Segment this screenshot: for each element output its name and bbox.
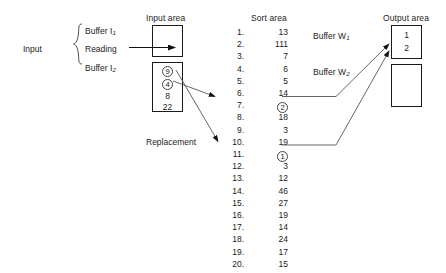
sort-row-index: 19.: [222, 246, 244, 258]
sort-row-index: 1.: [222, 26, 244, 38]
input-buffer-bottom-box: 94822: [152, 62, 183, 112]
sort-area-list: 1.132.1113.74.65.56.147.28.189.310.1911.…: [222, 26, 332, 272]
output-buffer-value: 2: [392, 44, 421, 53]
sort-row-index: 8.: [222, 111, 244, 123]
sort-row: 11.1: [222, 148, 332, 160]
sort-row-index: 11.: [222, 148, 244, 160]
sort-row-index: 12.: [222, 160, 244, 172]
output-buffer-bottom-box: [391, 64, 422, 107]
circled-value: 4: [162, 79, 173, 90]
output-buffer-value: 1: [392, 31, 421, 40]
sort-row-value: 12: [252, 172, 288, 184]
input-group-label: Input: [23, 44, 42, 54]
sort-row: 6.14: [222, 87, 332, 99]
sort-area-title: Sort area: [251, 13, 287, 23]
sort-row-index: 9.: [222, 124, 244, 136]
sort-row-value: 6: [252, 63, 288, 75]
sort-row-value: 19: [252, 136, 288, 148]
sort-row-index: 2.: [222, 38, 244, 50]
sort-row-value: 18: [252, 111, 288, 123]
sort-row: 16.19: [222, 209, 332, 221]
sort-row: 17.14: [222, 221, 332, 233]
sort-row-value: 13: [252, 26, 288, 38]
sort-row: 12.3: [222, 160, 332, 172]
sort-row: 13.12: [222, 172, 332, 184]
sort-row-value: 17: [252, 246, 288, 258]
buffer-i2-text: Buffer I: [85, 63, 112, 73]
circled-value: 9: [162, 66, 173, 77]
reading-label: Reading: [85, 44, 117, 54]
sort-row-value: 46: [252, 185, 288, 197]
sort-row: 19.17: [222, 246, 332, 258]
buffer-w1-text: Buffer W: [313, 31, 346, 41]
sort-row-index: 17.: [222, 221, 244, 233]
sort-row-value: 14: [252, 87, 288, 99]
sort-row-value: 15: [252, 258, 288, 270]
output-buffer-top-box: 12: [391, 25, 422, 59]
input-buffer-value: 22: [153, 103, 182, 112]
buffer-i1-subscript: 1: [112, 29, 116, 36]
buffer-w2-label: Buffer W2: [313, 67, 350, 77]
sort-row: 10.19: [222, 136, 332, 148]
sort-row-index: 20.: [222, 258, 244, 270]
sort-row: 3.7: [222, 50, 332, 62]
sort-row-index: 6.: [222, 87, 244, 99]
sort-row-value: 19: [252, 209, 288, 221]
input-area-title: Input area: [146, 13, 185, 23]
sort-row: 18.24: [222, 233, 332, 245]
buffer-w1-subscript: 1: [346, 34, 350, 41]
sort-row: 15.27: [222, 197, 332, 209]
sort-row-index: 3.: [222, 50, 244, 62]
input-buffer-value: 4: [153, 79, 182, 90]
sort-row-value: 5: [252, 75, 288, 87]
sort-row-value: 111: [252, 38, 288, 50]
sort-row-value: 27: [252, 197, 288, 209]
sort-row-index: 13.: [222, 172, 244, 184]
sort-row: 7.2: [222, 99, 332, 111]
output-area-title: Output area: [383, 13, 429, 23]
input-brace: [74, 24, 83, 64]
input-buffer-value: 9: [153, 66, 182, 77]
buffer-i1-text: Buffer I: [85, 26, 112, 36]
sort-row-value: 7: [252, 50, 288, 62]
buffer-i1-label: Buffer I1: [85, 26, 116, 36]
sort-row-index: 16.: [222, 209, 244, 221]
input-buffer-value: 8: [153, 92, 182, 101]
sort-row-index: 10.: [222, 136, 244, 148]
replacement-label: Replacement: [146, 137, 196, 147]
buffer-i2-label: Buffer I2: [85, 63, 116, 73]
buffer-w2-subscript: 2: [346, 70, 350, 77]
sort-row: 14.46: [222, 185, 332, 197]
sort-row-value: 3: [252, 160, 288, 172]
buffer-i2-subscript: 2: [112, 66, 116, 73]
sort-row-index: 18.: [222, 233, 244, 245]
input-buffer-top-box: [152, 25, 183, 57]
sort-row-value: 24: [252, 233, 288, 245]
sort-row: 8.18: [222, 111, 332, 123]
sort-row-index: 14.: [222, 185, 244, 197]
sort-row: 9.3: [222, 124, 332, 136]
buffer-w1-label: Buffer W1: [313, 31, 350, 41]
sort-row-index: 15.: [222, 197, 244, 209]
sort-row-value: 3: [252, 124, 288, 136]
sort-row-index: 5.: [222, 75, 244, 87]
buffer-w2-text: Buffer W: [313, 67, 346, 77]
sort-row-value: 14: [252, 221, 288, 233]
sort-row-index: 4.: [222, 63, 244, 75]
sort-row: 20.15: [222, 258, 332, 270]
sort-row-index: 7.: [222, 99, 244, 111]
diagram-canvas: Input area Sort area Output area Input B…: [0, 0, 446, 273]
